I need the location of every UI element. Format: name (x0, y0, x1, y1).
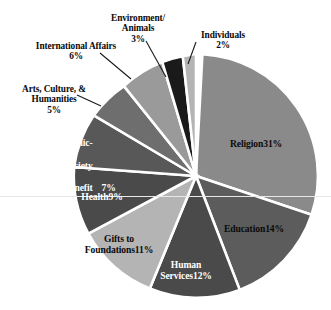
slice-label-gifts-to-foundations-text: Gifts to Foundations (85, 233, 135, 255)
slice-label-individuals: Individuals2% (186, 19, 260, 61)
slice-label-gifts-to-foundations: Gifts to Foundations11% (79, 222, 159, 256)
slice-label-public-society-benefit-line3-row: Benefit7% (64, 182, 158, 193)
slice-label-individuals-text: Individuals (201, 30, 245, 40)
slice-percent-public-society-benefit: 7% (102, 182, 116, 193)
slice-percent-human-services: 12% (193, 270, 212, 281)
slice-percent-religion: 31% (263, 138, 282, 149)
slice-label-human-services: Human Services12% (155, 248, 217, 282)
slice-label-religion-text: Religion (230, 138, 263, 149)
slice-label-arts-culture-humanities: Arts, Culture, & Humanities5% (2, 73, 106, 126)
slice-label-public-society-benefit: Public- Society Benefit7% (64, 126, 158, 204)
slice-label-education-text: Education (224, 223, 265, 234)
slice-percent-education: 14% (265, 223, 284, 234)
pie-chart-figure: Environment/ Animals3% Individuals2% Int… (0, 0, 331, 310)
slice-percent-gifts-to-foundations: 11% (135, 244, 153, 255)
slice-percent-arts-culture-humanities: 5% (2, 105, 106, 116)
slice-label-religion: Religion31% (219, 127, 293, 149)
slice-label-education: Education14% (216, 212, 292, 234)
slice-label-public-society-benefit-line3: Benefit (64, 182, 93, 193)
slice-label-international-affairs: International Affairs6% (22, 30, 130, 72)
slice-label-international-affairs-text: International Affairs (36, 41, 116, 51)
slice-percent-individuals: 2% (186, 40, 260, 51)
slice-percent-international-affairs: 6% (22, 51, 130, 62)
slice-label-public-society-benefit-line1: Public- (64, 137, 158, 148)
slice-label-public-society-benefit-line2: Society (64, 160, 158, 171)
slice-label-arts-culture-humanities-text: Arts, Culture, & Humanities (22, 84, 86, 105)
